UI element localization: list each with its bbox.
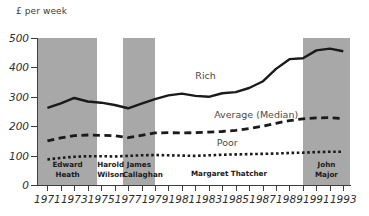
series-label-rich: Rich	[195, 70, 215, 81]
pm-term-label-line1: Harold	[97, 160, 123, 170]
x-tick-label: 1989	[276, 193, 303, 205]
y-tick-label: 100	[9, 150, 29, 162]
x-tick	[168, 186, 169, 191]
pm-term-label: JamesCallaghan	[123, 160, 155, 179]
y-tick-label: 0	[22, 179, 29, 191]
y-tick-label: 300	[9, 91, 29, 103]
x-tick-label: 1975	[88, 193, 115, 205]
x-tick	[303, 186, 304, 191]
x-tick	[74, 186, 75, 191]
x-tick-label: 1985	[222, 193, 249, 205]
y-tick-label: 200	[9, 120, 29, 132]
pm-term-label: HaroldWilson	[97, 160, 123, 179]
x-tick	[249, 186, 250, 191]
y-tick-label: 500	[9, 32, 29, 44]
y-tick-label: 400	[9, 61, 29, 73]
pm-term-label-line1: James	[123, 160, 155, 170]
x-tick-label: 1983	[195, 193, 222, 205]
x-tick	[47, 186, 48, 191]
x-tick	[343, 186, 344, 191]
x-tick	[330, 186, 331, 191]
x-tick	[289, 186, 290, 191]
x-tick	[128, 186, 129, 191]
x-tick-label: 1987	[249, 193, 276, 205]
pm-term-label-line1: Edward	[38, 160, 97, 170]
pm-term-label-line1: Margaret Thatcher	[155, 169, 303, 179]
pm-term-label: JohnMajor	[303, 160, 350, 179]
x-tick	[236, 186, 237, 191]
x-tick-label: 1993	[330, 193, 357, 205]
chart-container: £ per week 0100200300400500 EdwardHeathH…	[0, 0, 369, 216]
x-tick	[209, 186, 210, 191]
x-tick-label: 1991	[303, 193, 330, 205]
pm-term-label: Margaret Thatcher	[155, 169, 303, 179]
pm-term-label-line2: Callaghan	[123, 170, 155, 180]
x-tick-label: 1981	[169, 193, 196, 205]
x-tick-label: 1977	[115, 193, 142, 205]
x-tick	[263, 186, 264, 191]
x-tick-label: 1979	[142, 193, 169, 205]
x-tick-label: 1971	[34, 193, 61, 205]
x-tick	[88, 186, 89, 191]
x-tick	[101, 186, 102, 191]
pm-term-label-line2: Heath	[38, 170, 97, 180]
pm-term-label-line2: Major	[303, 170, 350, 180]
pm-term-label: EdwardHeath	[38, 160, 97, 179]
x-tick	[182, 186, 183, 191]
x-tick	[61, 186, 62, 191]
x-tick	[155, 186, 156, 191]
pm-term-label-line1: John	[303, 160, 350, 170]
pm-term-label-line2: Wilson	[97, 170, 123, 180]
x-tick	[222, 186, 223, 191]
x-tick	[142, 186, 143, 191]
series-line-poor	[47, 152, 343, 160]
series-label-poor: Poor	[217, 137, 238, 148]
series-label-average-median: Average (Median)	[214, 109, 298, 120]
x-tick	[316, 186, 317, 191]
x-tick-label: 1973	[61, 193, 88, 205]
x-tick	[195, 186, 196, 191]
y-axis-tick-labels: 0100200300400500	[0, 0, 29, 216]
x-tick	[276, 186, 277, 191]
series-line-average-median	[47, 118, 343, 141]
x-tick	[115, 186, 116, 191]
